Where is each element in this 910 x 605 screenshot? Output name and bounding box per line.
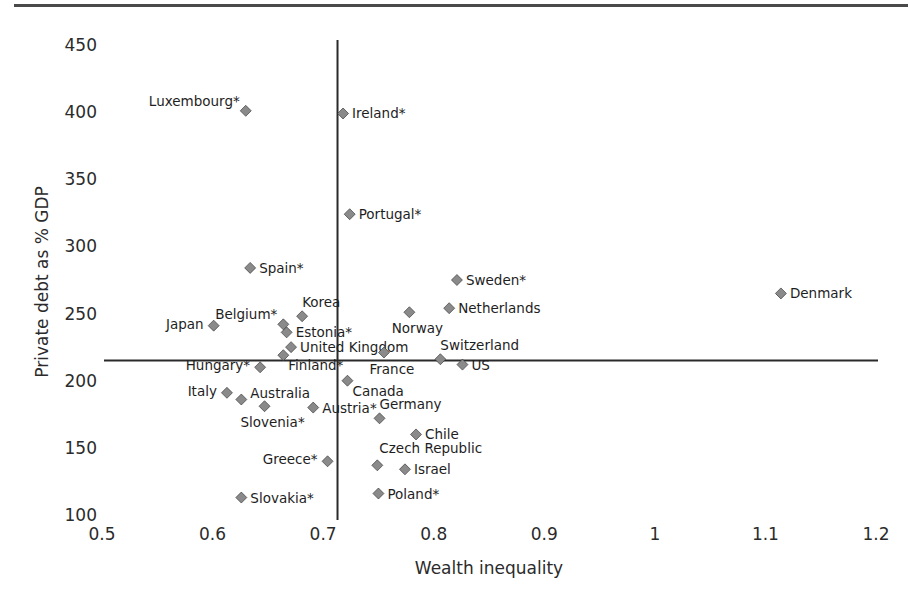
data-point: Portugal*	[344, 206, 421, 222]
point-label: Sweden*	[466, 272, 526, 288]
data-point: Austria*	[308, 400, 377, 416]
diamond-marker-icon	[444, 303, 455, 314]
point-label: Italy	[188, 383, 217, 399]
data-point: Slovenia*	[240, 401, 304, 431]
point-label: Estonia*	[296, 324, 353, 340]
data-point: Netherlands	[444, 300, 541, 316]
diamond-marker-icon	[255, 362, 266, 373]
diamond-marker-icon	[221, 387, 232, 398]
data-point: Korea	[297, 294, 341, 322]
y-axis-title: Private debt as % GDP	[32, 186, 52, 378]
diamond-marker-icon	[404, 307, 415, 318]
point-label: France	[370, 361, 415, 377]
data-point: Japan	[165, 316, 219, 332]
x-tick-label: 1.2	[862, 524, 889, 544]
data-point: Greece*	[263, 451, 333, 467]
diamond-marker-icon	[344, 209, 355, 220]
data-point: Ireland*	[338, 105, 406, 121]
x-tick-label: 0.6	[199, 524, 226, 544]
y-tick-label: 300	[65, 236, 97, 256]
point-label: Poland*	[387, 486, 439, 502]
y-tick-label: 450	[65, 35, 97, 55]
data-point: Sweden*	[451, 272, 526, 288]
y-tick-label: 350	[65, 169, 97, 189]
data-point: Poland*	[373, 486, 440, 502]
data-point: Italy	[188, 383, 233, 399]
point-label: US	[471, 357, 489, 373]
diamond-marker-icon	[245, 262, 256, 273]
point-label: Ireland*	[352, 105, 406, 121]
y-tick-label: 400	[65, 102, 97, 122]
data-point: United Kingdom	[286, 339, 409, 355]
diamond-marker-icon	[338, 108, 349, 119]
data-point: Israel	[399, 461, 450, 477]
diamond-marker-icon	[775, 288, 786, 299]
x-axis-ticks: 0.50.60.70.80.911.11.2	[88, 524, 889, 544]
y-tick-label: 150	[65, 438, 97, 458]
point-label: Portugal*	[359, 206, 422, 222]
diamond-marker-icon	[286, 342, 297, 353]
data-point: US	[457, 357, 490, 373]
diamond-marker-icon	[373, 488, 384, 499]
data-point: Germany	[374, 396, 442, 424]
diamond-marker-icon	[308, 402, 319, 413]
point-label: Switzerland	[440, 337, 519, 353]
scatter-chart: 100150200250300350400450 0.50.60.70.80.9…	[0, 0, 910, 605]
point-label: Japan	[165, 316, 204, 332]
x-tick-label: 0.9	[531, 524, 558, 544]
point-label: Czech Republic	[379, 440, 482, 456]
point-label: Greece*	[263, 451, 318, 467]
point-label: Hungary*	[186, 357, 251, 373]
diamond-marker-icon	[278, 350, 289, 361]
data-point: Luxembourg*	[149, 93, 251, 117]
point-label: Korea	[302, 294, 340, 310]
data-point: Australia	[236, 385, 310, 406]
data-points: Luxembourg*Ireland*Portugal*Spain*Sweden…	[149, 93, 852, 506]
point-label: Finland*	[288, 357, 343, 373]
point-label: Norway	[392, 320, 443, 336]
y-tick-label: 100	[65, 505, 97, 525]
data-point: Estonia*	[281, 324, 352, 340]
y-tick-label: 200	[65, 371, 97, 391]
point-label: Germany	[380, 396, 442, 412]
diamond-marker-icon	[342, 375, 353, 386]
data-point: Belgium*	[215, 306, 289, 330]
point-label: Slovenia*	[240, 414, 304, 430]
y-tick-label: 250	[65, 304, 97, 324]
diamond-marker-icon	[372, 460, 383, 471]
diamond-marker-icon	[236, 492, 247, 503]
y-axis-ticks: 100150200250300350400450	[65, 35, 97, 525]
x-tick-label: 1	[649, 524, 660, 544]
diamond-marker-icon	[322, 456, 333, 467]
diamond-marker-icon	[435, 354, 446, 365]
point-label: Belgium*	[215, 306, 277, 322]
point-label: Slovakia*	[250, 490, 314, 506]
point-label: Denmark	[790, 285, 852, 301]
point-label: Israel	[414, 461, 451, 477]
data-point: Canada	[342, 375, 404, 399]
point-label: Austria*	[322, 400, 377, 416]
x-tick-label: 0.8	[420, 524, 447, 544]
x-tick-label: 0.5	[88, 524, 115, 544]
x-axis-title: Wealth inequality	[415, 558, 563, 578]
point-label: Luxembourg*	[149, 93, 240, 109]
diamond-marker-icon	[297, 311, 308, 322]
data-point: Slovakia*	[236, 490, 314, 506]
x-tick-label: 0.7	[310, 524, 337, 544]
diamond-marker-icon	[236, 394, 247, 405]
diamond-marker-icon	[259, 401, 270, 412]
diamond-marker-icon	[411, 429, 422, 440]
point-label: United Kingdom	[300, 339, 408, 355]
point-label: Australia	[250, 385, 310, 401]
point-label: Spain*	[259, 260, 304, 276]
diamond-marker-icon	[451, 275, 462, 286]
diamond-marker-icon	[240, 105, 251, 116]
point-label: Netherlands	[458, 300, 540, 316]
diamond-marker-icon	[399, 464, 410, 475]
x-tick-label: 1.1	[752, 524, 779, 544]
data-point: Norway	[392, 307, 443, 337]
data-point: Spain*	[245, 260, 304, 276]
data-point: Denmark	[775, 285, 852, 301]
